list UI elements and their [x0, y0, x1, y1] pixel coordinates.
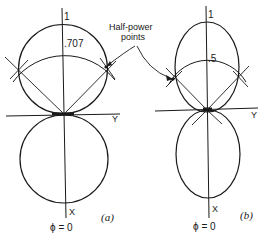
lower-diagonal-right-b — [207, 110, 222, 124]
node-b — [203, 108, 212, 112]
half-power-tick-right-b — [233, 71, 248, 87]
x-axis-label-a: X — [69, 207, 75, 217]
arrow-b — [137, 46, 170, 78]
diagonal-left-b — [166, 68, 207, 110]
y-axis-label-b: Y — [251, 110, 257, 120]
arrow-a — [108, 46, 135, 65]
half-power-annotation: Half-power points — [106, 22, 173, 81]
diagonal-left-a — [5, 57, 64, 114]
x-axis-label-b: X — [212, 204, 218, 214]
level-label-b: .5 — [208, 53, 217, 64]
panel-a: 1 .707 Y X ϕ = 0 (a) — [5, 8, 120, 233]
caption-b: (b) — [240, 209, 253, 222]
annotation-line-2: points — [121, 32, 146, 42]
top-label-b: 1 — [208, 9, 214, 20]
radiation-pattern-diagram: 1 .707 Y X ϕ = 0 (a) Half-power points 1… — [0, 0, 261, 237]
diagonal-right-b — [207, 66, 249, 110]
node-a — [52, 113, 74, 116]
half-power-point-b — [171, 77, 174, 80]
panel-b: 1 .5 Y X ϕ = 0 (b) — [155, 6, 258, 232]
y-axis-label-a: Y — [112, 114, 118, 124]
level-label-a: .707 — [64, 38, 84, 49]
phi-label-b: ϕ = 0 — [193, 221, 216, 232]
top-label-a: 1 — [64, 11, 70, 22]
annotation-line-1: Half-power — [109, 22, 153, 32]
caption-a: (a) — [101, 211, 114, 224]
lower-diagonal-left-b — [192, 110, 207, 125]
phi-label-a: ϕ = 0 — [50, 222, 73, 233]
